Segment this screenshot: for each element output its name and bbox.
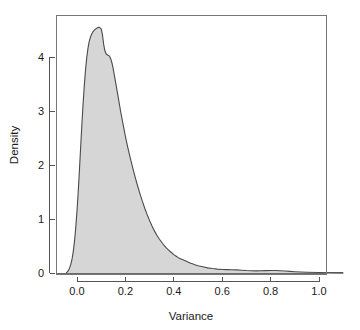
density-plot-figure: 0.00.20.40.60.81.0 01234 Variance Densit… xyxy=(0,0,360,330)
x-axis: 0.00.20.40.60.81.0 xyxy=(69,277,326,298)
y-tick-label: 3 xyxy=(38,105,44,117)
x-tick-label: 0.6 xyxy=(215,285,230,297)
y-axis: 01234 xyxy=(38,51,55,279)
y-axis-title: Density xyxy=(8,126,20,165)
x-tick-label: 0.4 xyxy=(166,285,181,297)
y-tick-label: 4 xyxy=(38,51,44,63)
plot-area xyxy=(56,16,343,275)
y-tick-label: 1 xyxy=(38,213,44,225)
density-fill-area xyxy=(66,27,343,273)
y-tick-label: 0 xyxy=(38,267,44,279)
y-tick-label: 2 xyxy=(38,159,44,171)
x-tick-label: 0.0 xyxy=(69,285,84,297)
x-axis-title: Variance xyxy=(169,310,214,322)
plot-canvas: 0.00.20.40.60.81.0 01234 Variance Densit… xyxy=(0,0,360,330)
x-tick-label: 1.0 xyxy=(311,285,326,297)
x-tick-label: 0.8 xyxy=(263,285,278,297)
x-tick-label: 0.2 xyxy=(118,285,133,297)
